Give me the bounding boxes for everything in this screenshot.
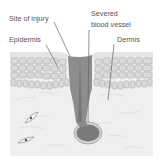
skin-cross-section-diagram [0, 0, 160, 165]
label-severed-line2: blood vessel [91, 21, 131, 29]
label-site-of-injury: Site of injury [9, 15, 49, 23]
label-epidermis: Epidermis [9, 36, 41, 44]
epidermis-cells-left [11, 58, 69, 89]
skin-surface [10, 52, 72, 58]
label-severed-line1: Severed [91, 10, 118, 18]
label-dermis: Dermis [117, 36, 140, 44]
